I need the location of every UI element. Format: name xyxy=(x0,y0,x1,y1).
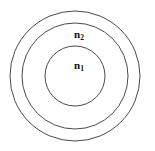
label-n1-subscript: 1 xyxy=(80,64,84,73)
label-n1: n1 xyxy=(74,59,84,73)
diagram-canvas: n2 n1 xyxy=(0,0,155,151)
concentric-circles-figure: n2 n1 xyxy=(0,0,155,151)
label-n2-subscript: 2 xyxy=(80,33,84,42)
inner-circle xyxy=(45,46,105,106)
label-n2: n2 xyxy=(74,28,84,42)
